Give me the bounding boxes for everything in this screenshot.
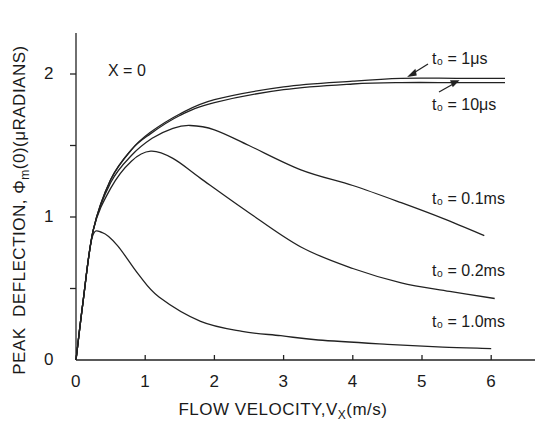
curve-series-4 (76, 231, 491, 360)
y-tick-label: 1 (44, 207, 53, 227)
x-tick-label: 2 (209, 372, 218, 392)
curve-series-2 (76, 125, 484, 360)
y-tick-label: 2 (44, 64, 53, 84)
curve-label-4: t₀ = 1.0ms (432, 313, 505, 331)
curve-label-2: t₀ = 0.1ms (432, 190, 505, 208)
annotation-x-equals-0: X = 0 (108, 62, 146, 80)
y-tick-label: 0 (44, 350, 53, 370)
x-tick-label: 5 (417, 372, 426, 392)
arrowhead-10us (451, 81, 458, 86)
x-tick-label: 1 (140, 372, 149, 392)
x-tick-label: 0 (71, 372, 80, 392)
arrowhead-1us (409, 70, 416, 76)
y-axis-label: PEAK DEFLECTION, Φm(0)(μRADIANS) (6, 0, 36, 442)
x-tick-label: 6 (486, 372, 495, 392)
x-tick-label: 4 (348, 372, 357, 392)
x-tick-label: 3 (279, 372, 288, 392)
x-axis-label: FLOW VELOCITY,VX(m/s) (0, 400, 546, 422)
curve-label-1: t₀ = 10μs (432, 96, 496, 114)
curve-label-3: t₀ = 0.2ms (432, 262, 505, 280)
y-axis-label-text: PEAK DEFLECTION, Φm(0)(μRADIANS) (10, 45, 32, 374)
curve-label-0: t₀ = 1μs (432, 50, 487, 68)
